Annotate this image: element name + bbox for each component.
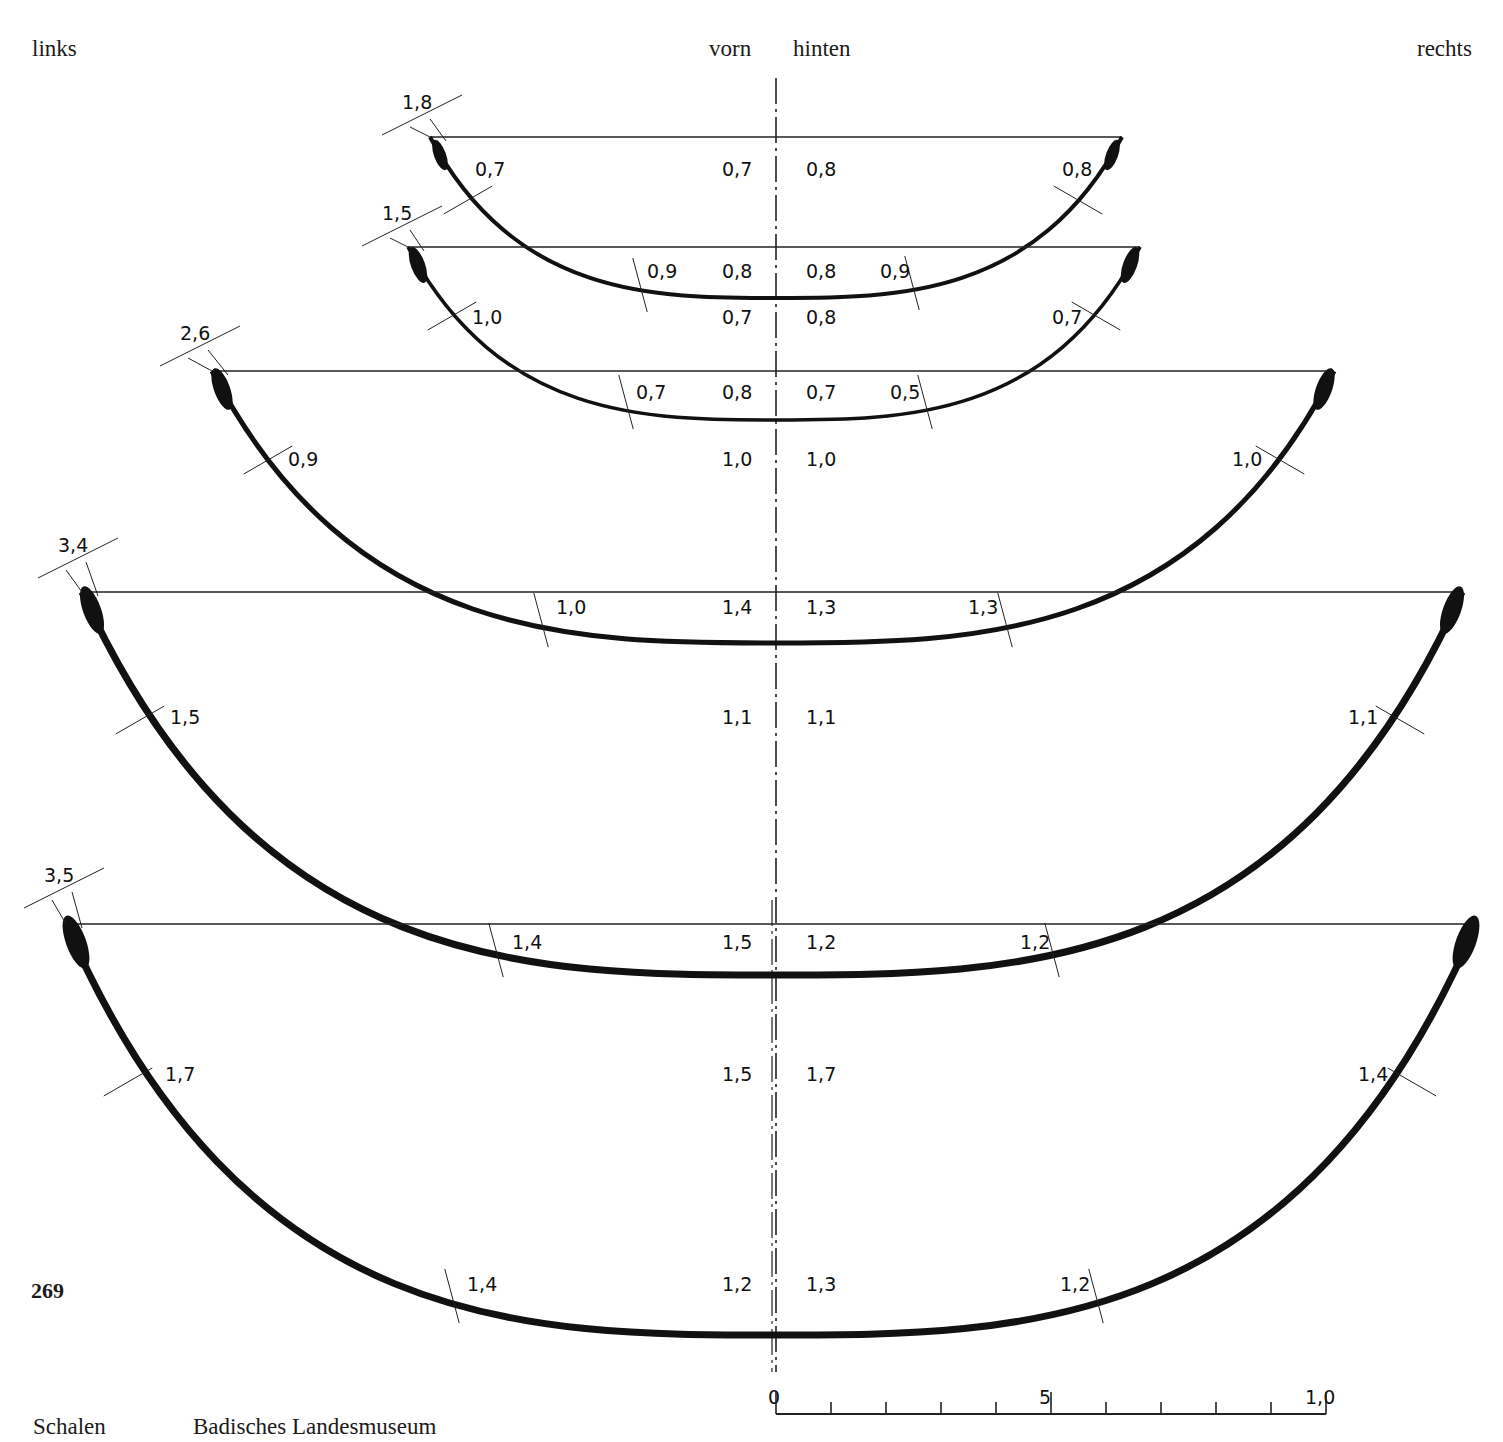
wall-left-label: 1,0 [472, 306, 502, 328]
rim-thickness-label: 3,5 [44, 864, 74, 886]
plate-number: 269 [31, 1278, 64, 1304]
rim-extension-line [390, 238, 408, 247]
center-upper-front-label: 0,7 [722, 306, 752, 328]
bowl-wall [408, 247, 1140, 420]
wall-right-label: 0,8 [1062, 158, 1092, 180]
rim-thickness-label: 2,6 [180, 322, 210, 344]
bowl-profile-5: 3,51,71,41,51,71,41,21,21,3 [24, 864, 1485, 1335]
center-base-front-label: 0,8 [722, 260, 752, 282]
lower-right-label: 0,9 [880, 260, 910, 282]
lower-left-label: 0,9 [647, 260, 677, 282]
center-base-back-label: 0,7 [806, 381, 836, 403]
thickness-tick [633, 258, 647, 312]
wall-right-label: 1,4 [1358, 1063, 1388, 1085]
scale-label-5: 5 [1039, 1386, 1051, 1408]
center-upper-front-label: 1,1 [722, 706, 752, 728]
center-upper-back-label: 1,0 [806, 448, 836, 470]
bowl-profile-2: 1,51,00,70,70,80,70,50,80,7 [362, 202, 1143, 429]
thickness-tick [428, 302, 476, 330]
center-base-front-label: 1,4 [722, 596, 752, 618]
lower-right-label: 1,3 [968, 596, 998, 618]
center-base-back-label: 1,3 [806, 1273, 836, 1295]
lower-right-label: 0,5 [890, 381, 920, 403]
scale-label-10: 1,0 [1305, 1386, 1335, 1408]
thickness-tick [619, 375, 633, 429]
wall-right-label: 1,1 [1348, 706, 1378, 728]
rim-lip-right [1447, 912, 1485, 971]
thickness-tick [244, 446, 292, 474]
lower-right-label: 1,2 [1020, 931, 1050, 953]
center-base-back-label: 1,2 [806, 931, 836, 953]
bowl-profile-4: 3,41,51,11,11,11,41,21,51,2 [38, 534, 1469, 977]
center-upper-back-label: 1,7 [806, 1063, 836, 1085]
thickness-tick [1089, 1269, 1103, 1323]
rim-extension-line [66, 570, 82, 592]
center-upper-front-label: 1,0 [722, 448, 752, 470]
thickness-tick [489, 923, 503, 977]
center-upper-back-label: 1,1 [806, 706, 836, 728]
bowl-profiles-drawing: 1,80,70,80,70,80,90,90,80,81,51,00,70,70… [0, 0, 1503, 1442]
caption-category: Schalen [33, 1414, 106, 1440]
wall-left-label: 1,7 [165, 1063, 195, 1085]
center-upper-front-label: 1,5 [722, 1063, 752, 1085]
center-upper-front-label: 0,7 [722, 158, 752, 180]
center-base-back-label: 0,8 [806, 260, 836, 282]
wall-right-label: 1,0 [1232, 448, 1262, 470]
center-base-back-label: 1,3 [806, 596, 836, 618]
scale-label-0: 0 [768, 1386, 780, 1408]
wall-left-label: 0,7 [475, 158, 505, 180]
rim-thickness-label: 1,5 [382, 202, 412, 224]
rim-extension-line [188, 358, 212, 371]
rim-extension-line [52, 900, 66, 924]
thickness-tick [998, 593, 1012, 647]
rim-lip-left [57, 912, 95, 971]
center-base-front-label: 1,2 [722, 1273, 752, 1295]
profiles-layer: 1,80,70,80,70,80,90,90,80,81,51,00,70,70… [24, 91, 1485, 1335]
center-upper-back-label: 0,8 [806, 306, 836, 328]
wall-right-label: 0,7 [1052, 306, 1082, 328]
center-base-front-label: 1,5 [722, 931, 752, 953]
lower-left-label: 1,4 [467, 1273, 497, 1295]
bowl-profile-1: 1,80,70,80,70,80,90,90,80,8 [382, 91, 1123, 312]
thickness-tick [104, 1068, 152, 1096]
thickness-tick [534, 593, 548, 647]
bowl-wall [212, 371, 1334, 643]
bowl-profile-3: 2,60,91,01,01,01,01,31,41,3 [160, 322, 1339, 647]
lower-left-label: 1,4 [512, 931, 542, 953]
rim-thickness-label: 3,4 [58, 534, 88, 556]
thickness-tick [1054, 186, 1102, 214]
scale-bar: 0 5 1,0 [768, 1386, 1335, 1414]
center-upper-back-label: 0,8 [806, 158, 836, 180]
wall-left-label: 1,5 [170, 706, 200, 728]
rim-extension-line [410, 127, 430, 137]
thickness-tick [445, 1269, 459, 1323]
center-base-front-label: 0,8 [722, 381, 752, 403]
lower-right-label: 1,2 [1060, 1273, 1090, 1295]
rim-thickness-label: 1,8 [402, 91, 432, 113]
lower-left-label: 0,7 [636, 381, 666, 403]
lower-left-label: 1,0 [556, 596, 586, 618]
thickness-tick [1256, 446, 1304, 474]
wall-left-label: 0,9 [288, 448, 318, 470]
thickness-tick [444, 186, 492, 214]
bowl-wall [66, 924, 1476, 1335]
caption-institution: Badisches Landesmuseum [193, 1414, 436, 1440]
